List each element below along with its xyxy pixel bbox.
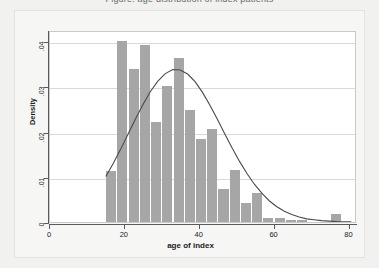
x-axis-tick-label: 40 xyxy=(187,230,211,239)
x-axis-tick xyxy=(124,225,125,229)
title-fragment: Figure: age distribution of index patien… xyxy=(0,0,379,7)
x-axis-tick xyxy=(199,225,200,229)
title-fragment-text: Figure: age distribution of index patien… xyxy=(0,0,379,4)
y-axis-tick-label: .02 xyxy=(38,132,45,146)
y-axis-tick xyxy=(44,223,48,224)
plot-area xyxy=(49,31,356,223)
y-axis-tick-label: .04 xyxy=(38,42,45,56)
density-curve xyxy=(50,32,355,222)
y-axis-tick xyxy=(44,87,48,88)
y-axis-tick-label: .01 xyxy=(38,177,45,191)
y-axis-tick xyxy=(44,42,48,43)
y-axis-tick xyxy=(44,178,48,179)
x-axis-tick-label: 60 xyxy=(262,230,286,239)
y-axis-tick xyxy=(44,133,48,134)
x-axis-tick-label: 20 xyxy=(112,230,136,239)
x-axis-tick-label: 80 xyxy=(337,230,361,239)
y-axis-title: Density xyxy=(28,98,37,125)
x-axis-line xyxy=(49,224,357,225)
y-axis-tick-label: .03 xyxy=(38,87,45,101)
chart-figure: Density 0.01.02.03.04 020406080 age of i… xyxy=(14,10,365,258)
x-axis-tick xyxy=(49,225,50,229)
x-axis-tick xyxy=(349,225,350,229)
x-axis-tick-label: 0 xyxy=(37,230,61,239)
x-axis-tick xyxy=(274,225,275,229)
x-axis-title: age of index xyxy=(15,241,366,250)
